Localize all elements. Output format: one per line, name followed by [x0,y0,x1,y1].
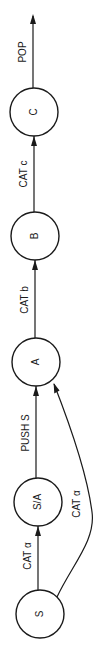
node-a: A [12,338,60,386]
edge-label-cat-alpha-1: CAT α [22,542,33,570]
node-a-label: A [30,358,41,365]
edge-label-cat-b: CAT b [19,286,30,314]
edge-label-push-s: PUSH S [20,414,31,452]
node-b-label: B [29,232,40,239]
edge-label-cat-alpha-2: CAT α [71,490,82,518]
edge-c-exit [30,14,36,88]
node-c: C [10,88,58,136]
node-s: S [16,590,64,638]
edge-a-b [32,260,38,338]
edge-label-cat-c: CAT c [18,161,29,188]
node-c-label: C [28,108,39,115]
edge-sa-a [33,386,39,478]
state-diagram: C B A S/A S POP CAT c CAT b PUSH S CAT α… [0,0,106,664]
edge-b-c [31,136,37,212]
edge-s-sa [35,526,41,590]
node-b: B [11,212,59,260]
node-sa: S/A [14,478,62,526]
node-s-label: S [34,610,45,617]
node-sa-label: S/A [32,494,43,510]
edge-label-pop: POP [17,41,28,62]
